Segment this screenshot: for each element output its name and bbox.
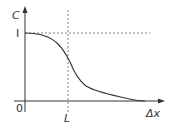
curve-series bbox=[25, 33, 145, 101]
x-axis-label: Δx bbox=[145, 107, 161, 120]
y-axis-arrow-icon bbox=[23, 6, 28, 13]
diagram-canvas: C I 0 L Δx bbox=[0, 0, 170, 127]
y-tick-label-I: I bbox=[16, 27, 19, 40]
x-tick-label-L: L bbox=[64, 112, 70, 125]
origin-label: 0 bbox=[16, 102, 23, 115]
x-axis-arrow-icon bbox=[158, 99, 165, 104]
y-axis-label: C bbox=[12, 9, 20, 22]
